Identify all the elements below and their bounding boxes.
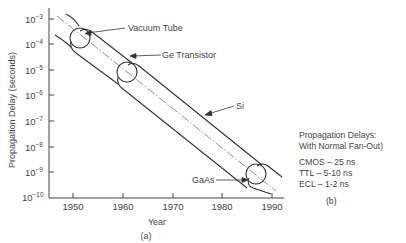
panel-b-row-ecl: ECL – 1-2 ns <box>299 179 404 190</box>
panel-a-label: (a) <box>141 231 152 241</box>
arrow-head-icon <box>130 54 136 59</box>
arrow-head-icon <box>205 111 212 116</box>
x-tick-label: 1980 <box>211 201 232 212</box>
y-tick-label: 10−8 <box>25 141 43 153</box>
panel-b-heading-1: Propagation Delays: <box>299 130 404 141</box>
y-tick-label: 10−9 <box>25 166 43 178</box>
panel-b-label: (b) <box>326 196 404 207</box>
technology-bands <box>55 14 282 194</box>
y-tick-label: 10−5 <box>25 64 43 76</box>
band-ge-transistor <box>71 29 132 84</box>
annotation-vacuum-tube: Vacuum Tube <box>128 23 183 33</box>
y-tick-label: 10−6 <box>25 89 43 101</box>
x-tick-label: 1960 <box>112 201 133 212</box>
panel-b-heading-2: With Normal Fan-Out) <box>299 141 404 152</box>
y-tick-labels: 10−3 10−4 10−5 10−6 10−7 10−8 10−9 10−10 <box>22 13 44 203</box>
y-tick-label: 10−3 <box>25 13 43 25</box>
x-tick-label: 1990 <box>261 201 282 212</box>
x-tick-label: 1950 <box>62 201 83 212</box>
y-tick-label: 10−7 <box>25 115 43 127</box>
panel-b-propagation-delays: Propagation Delays: With Normal Fan-Out)… <box>299 130 404 207</box>
axes <box>49 8 284 198</box>
x-tick-labels: 1950 1960 1970 1980 1990 <box>62 201 282 212</box>
x-axis-title: Year <box>148 217 166 227</box>
annotation-si: Si <box>236 101 244 111</box>
annotations: Vacuum Tube Ge Transistor Si GaAs <box>85 23 248 185</box>
y-tick-label: 10−10 <box>22 191 44 203</box>
annotation-gaas: GaAs <box>192 175 215 185</box>
panel-b-row-cmos: CMOS – 25 ns <box>299 157 404 168</box>
annotation-ge-transistor: Ge Transistor <box>162 50 216 60</box>
y-axis-title: Propagation Delay (seconds) <box>7 52 17 168</box>
y-tick-label: 10−4 <box>25 38 43 50</box>
panel-b-row-ttl: TTL – 5-10 ns <box>299 168 404 179</box>
x-tick-label: 1970 <box>162 201 183 212</box>
transition-ring-3 <box>246 164 266 184</box>
